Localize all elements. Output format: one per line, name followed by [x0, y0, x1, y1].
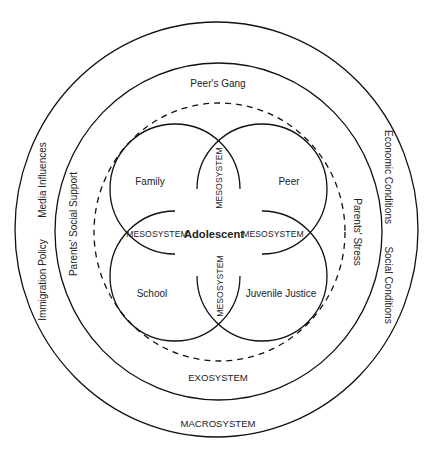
macro-item-economic-conditions: Economic Conditions	[383, 130, 394, 224]
exo-item-peers-gang: Peer's Gang	[190, 78, 245, 89]
exosystem-label: EXOSYSTEM	[188, 372, 248, 383]
center-adolescent-label: Adolescent	[184, 228, 244, 240]
microsystem-family-label: Family	[135, 176, 164, 187]
microsystem-juvenile-justice-label: Juvenile Justice	[246, 288, 317, 299]
exo-item-parents-stress: Parents' Stress	[352, 198, 363, 266]
macrosystem-label: MACROSYSTEM	[180, 418, 255, 429]
macro-item-social-conditions: Social Conditions	[383, 246, 394, 323]
ecological-systems-diagram: MACROSYSTEM EXOSYSTEM Peer's Gang Parent…	[0, 0, 434, 450]
mesosystem-label-right: MESOSYSTEM	[242, 229, 304, 239]
macro-item-immigration-policy: Immigration Policy	[37, 239, 48, 321]
exo-item-parents-social-support: Parents' Social Support	[68, 172, 79, 276]
microsystem-peer-label: Peer	[278, 176, 300, 187]
mesosystem-label-bottom: MESOSYSTEM	[215, 255, 225, 317]
mesosystem-label-top: MESOSYSTEM	[214, 147, 224, 209]
mesosystem-label-left: MESOSYSTEM	[126, 229, 188, 239]
macro-item-media-influences: Media Influences	[37, 142, 48, 218]
microsystem-school-label: School	[137, 288, 168, 299]
